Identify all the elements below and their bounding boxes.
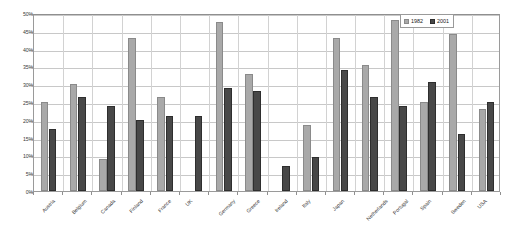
bar-uk-2001 [195,116,203,191]
x-axis-tick-mark [267,192,268,195]
bar-greece-1982 [245,74,253,191]
category-separator [92,15,93,191]
plot-area [33,14,500,192]
bar-germany-2001 [224,88,232,191]
x-axis-label-portugal: Portugal [391,198,409,216]
bar-france-1982 [157,97,165,191]
category-separator [326,15,327,191]
bar-ireland-2001 [282,166,290,191]
category-separator [209,15,210,191]
bar-usa-2001 [487,102,495,191]
category-separator [122,15,123,191]
category-separator [151,15,152,191]
x-axis-tick-mark [500,192,501,195]
x-axis-label-japan: Japan [332,198,346,212]
bar-chart: 0%5%10%15%20%25%30%35%40%45%50% AustriaB… [0,0,509,239]
x-axis-label-austria: Austria [40,198,55,213]
category-separator [297,15,298,191]
x-axis-label-italy: Italy [301,198,312,209]
x-axis-label-uk: UK [184,198,193,207]
bar-spain-2001 [428,82,436,191]
category-separator [63,15,64,191]
bar-canada-1982 [99,159,107,191]
x-axis-label-germany: Germany [217,198,236,217]
bar-belgium-1982 [70,84,78,191]
bar-finland-1982 [128,38,136,191]
bar-greece-2001 [253,91,261,191]
category-separator [384,15,385,191]
category-separator [472,15,473,191]
x-axis-label-canada: Canada [99,198,116,215]
x-axis-label-finland: Finland [128,198,144,214]
category-separator [180,15,181,191]
bar-japan-2001 [341,70,349,191]
bar-austria-2001 [49,129,57,191]
category-separator [355,15,356,191]
x-axis-tick-mark [412,192,413,195]
x-axis-label-netherlands: Netherlands [365,198,389,222]
bar-usa-1982 [479,109,487,191]
gridline [34,68,499,69]
x-axis: AustriaBelgiumCanadaFinlandFranceUKGerma… [0,192,509,239]
x-axis-tick-mark [179,192,180,195]
bar-spain-1982 [420,102,428,191]
bar-austria-1982 [41,102,49,191]
legend-entry-1982: 1982 [404,18,423,24]
bar-germany-1982 [216,22,224,191]
x-axis-label-ireland: Ireland [274,198,289,213]
legend-swatch-1982-icon [404,19,409,24]
x-axis-tick-mark [150,192,151,195]
bar-italy-1982 [303,125,311,191]
x-axis-tick-mark [471,192,472,195]
x-axis-tick-mark [121,192,122,195]
category-separator [268,15,269,191]
bar-italy-2001 [312,157,320,191]
bar-portugal-1982 [391,20,399,191]
x-axis-tick-mark [62,192,63,195]
chart-legend: 1982 2001 [400,14,454,28]
x-axis-tick-mark [237,192,238,195]
bar-netherlands-1982 [362,65,370,191]
bar-japan-1982 [333,38,341,191]
x-axis-tick-mark [442,192,443,195]
bar-canada-2001 [107,106,115,191]
category-separator [238,15,239,191]
legend-label-1982: 1982 [411,18,423,24]
x-axis-tick-mark [354,192,355,195]
bar-portugal-2001 [399,106,407,191]
x-axis-tick-mark [296,192,297,195]
x-axis-label-spain: Spain [419,198,432,211]
x-axis-label-usa: USA [476,198,488,210]
x-axis-tick-mark [33,192,34,195]
legend-entry-2001: 2001 [430,18,449,24]
bar-finland-2001 [136,120,144,191]
bar-france-2001 [166,116,174,191]
bar-belgium-2001 [78,97,86,191]
bar-sweden-2001 [458,134,466,191]
x-axis-label-belgium: Belgium [70,198,87,215]
gridline [34,51,499,52]
bar-sweden-1982 [449,34,457,191]
x-axis-label-greece: Greece [245,198,261,214]
x-axis-tick-mark [325,192,326,195]
x-axis-label-sweden: Sweden [450,198,467,215]
category-separator [413,15,414,191]
gridline [34,33,499,34]
x-axis-label-france: France [157,198,172,213]
legend-swatch-2001-icon [430,19,435,24]
legend-label-2001: 2001 [437,18,449,24]
bar-netherlands-2001 [370,97,378,191]
x-axis-tick-mark [91,192,92,195]
category-separator [443,15,444,191]
x-axis-tick-mark [208,192,209,195]
x-axis-tick-mark [383,192,384,195]
